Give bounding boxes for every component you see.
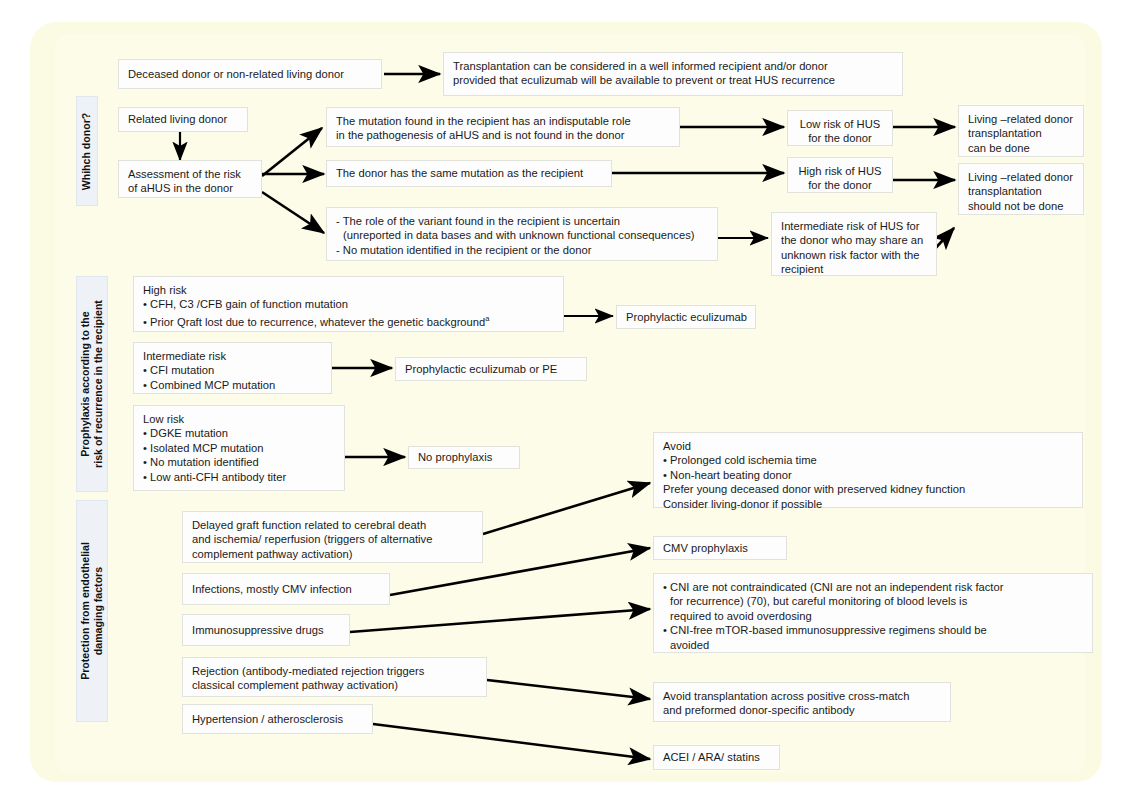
box-intermediate-risk-hus: Intermediate risk of HUS for the donor w… <box>771 212 937 276</box>
box-living-related-can-l2: transplantation <box>968 126 1074 140</box>
box-high-risk-hus-l2: for the donor <box>797 178 883 192</box>
box-donor-same-mutation-text: The donor has the same mutation as the r… <box>336 166 583 180</box>
section-label-protection: Protection from endothelial damaging fac… <box>76 500 108 722</box>
box-living-related-not-l1: Living –related donor <box>968 170 1074 184</box>
box-deceased-donor-text: Deceased donor or non-related living don… <box>128 67 344 81</box>
box-cni-l5: avoided <box>663 638 1083 652</box>
box-delayed-graft-l1: Delayed graft function related to cerebr… <box>192 518 473 532</box>
box-avoid-b3: Prefer young deceased donor with preserv… <box>663 482 1073 496</box>
box-related-living-donor: Related living donor <box>118 107 248 132</box>
section-label-prophylaxis-line2: risk of recurrence in the recipient <box>92 300 104 468</box>
box-living-related-can-l3: can be done <box>968 141 1074 155</box>
box-avoid-tx-l2: and preformed donor-specific antibody <box>663 703 941 717</box>
footnote-marker-a: a <box>485 314 489 323</box>
box-high-risk-recipient: High risk • CFH, C3 /CFB gain of functio… <box>133 276 564 332</box>
box-high-risk-hus-l1: High risk of HUS <box>797 164 883 178</box>
box-cni-l1: • CNI are not contraindicated (CNI are n… <box>663 580 1083 594</box>
box-low-risk-hus-l1: Low risk of HUS <box>797 117 883 131</box>
box-rejection-l1: Rejection (antibody-mediated rejection t… <box>192 664 477 678</box>
box-cmv-prophylaxis-text: CMV prophylaxis <box>663 541 748 555</box>
box-no-prophylaxis-text: No prophylaxis <box>418 450 492 464</box>
box-prophylactic-eculizumab-or-pe: Prophylactic eculizumab or PE <box>395 357 587 381</box>
box-low-risk-recipient-b4: • Low anti-CFH antibody titer <box>143 470 335 484</box>
box-delayed-graft-function: Delayed graft function related to cerebr… <box>182 511 483 563</box>
box-mutation-indisputable: The mutation found in the recipient has … <box>326 107 680 147</box>
box-high-risk-recipient-b1: • CFH, C3 /CFB gain of function mutation <box>143 297 554 311</box>
box-rejection-l2: classical complement pathway activation) <box>192 678 477 692</box>
box-mutation-indisputable-l1: The mutation found in the recipient has … <box>336 114 670 128</box>
box-cni-l4: • CNI-free mTOR-based immunosuppressive … <box>663 623 1083 637</box>
box-assessment-risk-l2: of aHUS in the donor <box>128 181 252 195</box>
box-living-related-can-be-done: Living –related donor transplantation ca… <box>958 105 1084 157</box>
box-variant-uncertain-l2: (unreported in data bases and with unkno… <box>336 228 708 242</box>
box-variant-uncertain-l3: - No mutation identified in the recipien… <box>336 243 708 257</box>
box-intermediate-risk-hus-l3: unknown risk factor with the <box>781 248 927 262</box>
box-avoid-b2: • Non-heart beating donor <box>663 468 1073 482</box>
box-related-living-donor-text: Related living donor <box>128 112 227 126</box>
box-avoid-head: Avoid <box>663 439 1073 453</box>
box-avoid-list: Avoid • Prolonged cold ischemia time • N… <box>653 432 1083 508</box>
box-transplantation-considered: Transplantation can be considered in a w… <box>443 52 903 96</box>
box-avoid-b1: • Prolonged cold ischemia time <box>663 453 1073 467</box>
box-high-risk-recipient-b2: • Prior Qraft lost due to recurrence, wh… <box>143 312 554 329</box>
box-living-related-should-not: Living –related donor transplantation sh… <box>958 163 1084 215</box>
section-label-which-donor-text: Whihch donor? <box>81 112 94 190</box>
box-prophylactic-eculizumab-text: Prophylactic eculizumab <box>626 310 747 324</box>
box-hypertension-atherosclerosis: Hypertension / atherosclerosis <box>182 704 373 734</box>
box-infections-cmv: Infections, mostly CMV infection <box>182 573 390 605</box>
box-intermediate-risk-recipient-b1: • CFI mutation <box>143 363 322 377</box>
box-transplantation-considered-l2: provided that eculizumab will be availab… <box>453 73 893 87</box>
section-label-which-donor: Whihch donor? <box>76 96 98 206</box>
box-infections-cmv-text: Infections, mostly CMV infection <box>192 582 352 596</box>
box-variant-uncertain-l1: - The role of the variant found in the r… <box>336 214 708 228</box>
section-label-prophylaxis: Prophylaxis according to the risk of rec… <box>76 276 108 492</box>
box-deceased-donor: Deceased donor or non-related living don… <box>118 59 382 89</box>
box-intermediate-risk-hus-l1: Intermediate risk of HUS for <box>781 219 927 233</box>
box-acei-ara-statins: ACEI / ARA/ statins <box>653 745 780 770</box>
box-living-related-not-l3: should not be done <box>968 199 1074 213</box>
box-assessment-risk-l1: Assessment of the risk <box>128 167 252 181</box>
box-living-related-can-l1: Living –related donor <box>968 112 1074 126</box>
box-mutation-indisputable-l2: in the pathogenesis of aHUS and is not f… <box>336 128 670 142</box>
section-label-protection-text: Protection from endothelial damaging fac… <box>79 542 105 680</box>
box-donor-same-mutation: The donor has the same mutation as the r… <box>326 160 612 187</box>
section-label-protection-line1: Protection from endothelial <box>79 542 91 680</box>
box-delayed-graft-l3: complement pathway activation) <box>192 547 473 561</box>
box-immunosuppressive-drugs: Immunosuppressive drugs <box>182 614 350 646</box>
box-prophylactic-eculizumab: Prophylactic eculizumab <box>616 305 756 329</box>
box-transplantation-considered-l1: Transplantation can be considered in a w… <box>453 59 893 73</box>
box-intermediate-risk-hus-l4: recipient <box>781 262 927 276</box>
box-intermediate-risk-hus-l2: the donor who may share an <box>781 233 927 247</box>
box-high-risk-recipient-b2-text: • Prior Qraft lost due to recurrence, wh… <box>143 316 485 328</box>
box-cni-l3: required to avoid overdosing <box>663 609 1083 623</box>
box-low-risk-recipient-head: Low risk <box>143 412 335 426</box>
section-label-prophylaxis-text: Prophylaxis according to the risk of rec… <box>79 300 105 468</box>
box-low-risk-recipient-b1: • DGKE mutation <box>143 426 335 440</box>
flowchart-figure: Whihch donor? Prophylaxis according to t… <box>0 0 1122 799</box>
box-high-risk-hus: High risk of HUS for the donor <box>787 157 893 193</box>
box-cni-recommendations: • CNI are not contraindicated (CNI are n… <box>653 573 1093 653</box>
box-low-risk-recipient-b2: • Isolated MCP mutation <box>143 441 335 455</box>
box-no-prophylaxis: No prophylaxis <box>408 446 520 469</box>
box-variant-uncertain: - The role of the variant found in the r… <box>326 207 718 261</box>
box-avoid-b4: Consider living-donor if possible <box>663 497 1073 511</box>
box-delayed-graft-l2: and ischemia/ reperfusion (triggers of a… <box>192 532 473 546</box>
section-label-prophylaxis-line1: Prophylaxis according to the <box>79 311 91 456</box>
box-avoid-tx-l1: Avoid transplantation across positive cr… <box>663 689 941 703</box>
box-high-risk-recipient-head: High risk <box>143 283 554 297</box>
box-living-related-not-l2: transplantation <box>968 184 1074 198</box>
box-intermediate-risk-recipient: Intermediate risk • CFI mutation • Combi… <box>133 342 332 394</box>
box-hypertension-atherosclerosis-text: Hypertension / atherosclerosis <box>192 712 343 726</box>
box-low-risk-hus: Low risk of HUS for the donor <box>787 110 893 146</box>
box-intermediate-risk-recipient-head: Intermediate risk <box>143 349 322 363</box>
box-intermediate-risk-recipient-b2: • Combined MCP mutation <box>143 378 322 392</box>
box-low-risk-recipient-b3: • No mutation identified <box>143 455 335 469</box>
box-low-risk-hus-l2: for the donor <box>797 131 883 145</box>
box-rejection: Rejection (antibody-mediated rejection t… <box>182 657 487 697</box>
box-avoid-transplantation-crossmatch: Avoid transplantation across positive cr… <box>653 682 951 722</box>
section-label-protection-line2: damaging factors <box>92 567 104 655</box>
box-low-risk-recipient: Low risk • DGKE mutation • Isolated MCP … <box>133 405 345 491</box>
box-cmv-prophylaxis: CMV prophylaxis <box>653 536 787 560</box>
box-cni-l2: for recurrence) (70), but careful monito… <box>663 594 1083 608</box>
box-acei-ara-statins-text: ACEI / ARA/ statins <box>663 750 760 764</box>
